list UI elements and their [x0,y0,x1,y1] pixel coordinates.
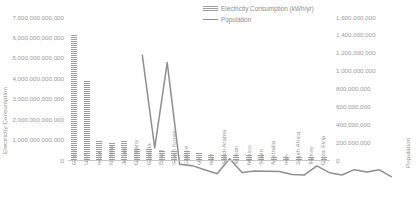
y-tick-label-left: 5,000,000,000,000 [0,54,64,61]
x-tick-label: UK [195,156,202,165]
x-tick-label: Russia [107,146,114,165]
y-tick-label-left: 6,000,000,000,000 [0,34,64,41]
x-tick-label: Brazil [157,150,164,165]
x-tick-label: South Africa [294,132,301,165]
x-tick-label: Japan [120,148,127,165]
legend-label-population: Population [221,16,251,23]
combo-chart: Electricity Consumption Population 7,000… [0,0,420,215]
legend-item-electricity: Electricity Consumption (kWh/yr) [203,3,314,13]
y-tick-label-left: 7,000,000,000,000 [0,14,64,21]
x-tick-label: Canada [145,143,152,165]
x-tick-label: Iran [282,154,289,165]
y-tick-label-left: 3,000,000,000,000 [0,95,64,102]
y-tick-label-left: 4,000,000,000,000 [0,75,64,82]
x-tick-label: USA [82,152,89,165]
x-tick-label: South Korea [170,131,177,165]
x-tick-label: Spain [257,149,264,165]
plot-area [68,17,330,160]
x-tick-label: Italy [207,154,214,165]
x-tick-label: China [70,149,77,165]
x-tick-label: Mexico [245,145,252,165]
chart-legend: Electricity Consumption (kWh/yr) Populat… [203,3,314,25]
x-tick-label: France [182,146,189,165]
line-swatch-icon [203,19,218,20]
x-tick-label: Turkey [307,146,314,165]
bar [84,80,90,160]
y-tick-label-left: 1,000,000,000,000 [0,136,64,143]
y-tick-label-left: 0 [0,157,64,164]
legend-item-population: Population [203,14,314,24]
x-tick-label: Saudi Arabia [220,130,227,165]
x-tick-label: Australia [269,141,276,165]
bar [71,35,77,160]
x-tick-label: India [95,152,102,165]
y-tick-label-right: 1,600,000,000 [336,14,400,21]
y-axis-title-right: Population [404,58,411,168]
legend-label-electricity: Electricity Consumption (kWh/yr) [221,5,314,12]
x-tick-label: Taiwan [232,146,239,165]
x-tick-label: Germany [132,140,139,165]
bar-swatch-icon [203,6,218,11]
y-tick-label-left: 2,000,000,000,000 [0,116,64,123]
x-tick-label: Gaza Strip [319,136,326,165]
